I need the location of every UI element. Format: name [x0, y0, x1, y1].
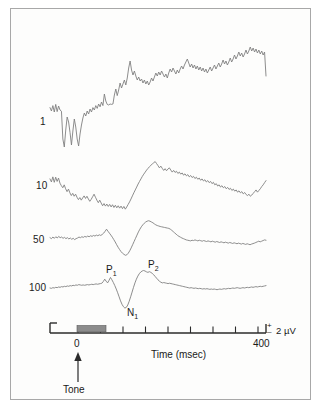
trace-label-50: 50: [33, 235, 45, 245]
waveform-trace-1: [50, 47, 266, 147]
event-marker-label-tone: Tone: [63, 385, 85, 395]
waveform-trace-100: [50, 270, 266, 308]
peak-label-p1-sub: 1: [113, 270, 117, 277]
tone-duration-bar: [77, 326, 106, 333]
trace-label-1: 1: [40, 117, 46, 127]
axis-title-time: Time (msec): [151, 350, 206, 360]
waveform-trace-50: [50, 221, 266, 256]
erp-figure: 1 10 50 100 P1 N1 P2 0 400 Time (msec) T…: [0, 0, 323, 410]
axis-tick-label-zero: 0: [74, 339, 80, 349]
arrow-head: [74, 352, 81, 361]
peak-label-p2: P2: [148, 260, 159, 272]
minus-sign: –: [267, 329, 272, 335]
polarity-indicators: + –: [267, 323, 272, 335]
peak-label-n1-sub: 1: [134, 313, 138, 320]
peak-label-p2-text: P: [148, 259, 155, 270]
scale-bar-amplitude-label: 2 µV: [276, 326, 296, 336]
tone-onset-arrow: [74, 352, 81, 382]
trace-label-10: 10: [36, 181, 48, 191]
peak-label-p2-sub: 2: [155, 265, 159, 272]
peak-label-p1: P1: [106, 265, 117, 277]
waveform-trace-10: [50, 162, 266, 210]
trace-label-100: 100: [29, 283, 46, 293]
peak-label-n1: N1: [127, 308, 138, 320]
axis-tick-label-end: 400: [253, 339, 270, 349]
peak-label-p1-text: P: [106, 264, 113, 275]
